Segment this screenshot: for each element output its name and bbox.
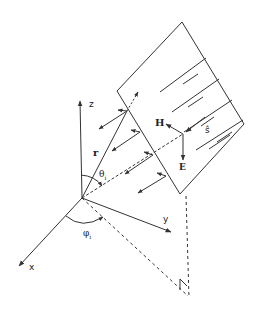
diagram-svg xyxy=(0,0,259,316)
r-label: r xyxy=(93,148,98,158)
center-dashed xyxy=(82,134,183,198)
z-axis-label: z xyxy=(89,100,94,109)
r-vector xyxy=(82,111,127,198)
x-axis xyxy=(19,198,82,266)
y-axis xyxy=(82,198,171,232)
vertical-dashed xyxy=(186,196,189,298)
s-hat-label: ŝ xyxy=(205,126,210,135)
e-label: E xyxy=(179,163,186,172)
phi-arc xyxy=(66,216,103,223)
y-axis-label: y xyxy=(163,215,168,224)
theta-label: θi xyxy=(99,170,106,181)
phi-label: φi xyxy=(83,229,91,240)
right-angle-marker xyxy=(180,279,187,290)
s-dir-dashed xyxy=(127,92,138,111)
diagram-canvas: z x y r H E ŝ θi φi xyxy=(0,0,259,316)
projection-dashed xyxy=(82,198,188,296)
z-axis xyxy=(80,101,82,198)
s-hat-vector xyxy=(186,117,205,132)
plate-hatching xyxy=(160,58,243,150)
h-vector xyxy=(166,124,183,134)
x-axis-label: x xyxy=(29,263,34,272)
h-label: H xyxy=(155,118,164,128)
